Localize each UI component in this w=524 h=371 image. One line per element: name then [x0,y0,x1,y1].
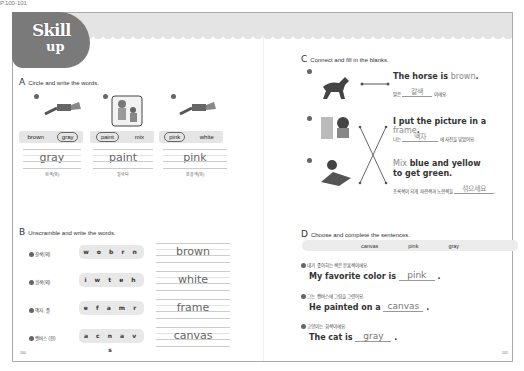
answer-text: canvas [156,329,230,342]
answer-text: white [156,273,230,286]
section-instruction: Connect and fill in the blanks. [310,57,388,63]
unscramble-row: 캔버스 (천) a c n a v s canvas [29,329,259,347]
writing-lines: brown [156,243,230,263]
workbook-spread: Skill up ACircle and write the words. br… [12,12,513,362]
sentence: The cat is gray . [309,331,397,342]
row-hint: 액자, 틀 [29,307,50,313]
row-hint: 갈색(의) [29,251,50,257]
korean-hint: 분홍색(의) [163,171,227,177]
scrambled-letters: a c n a v s [79,329,144,343]
section-b-heading: BUnscramble and write the words. [19,227,116,237]
section-c-heading: CConnect and fill in the blanks. [301,54,389,64]
choice-word-circled[interactable]: gray [57,132,79,142]
writing-lines: frame [156,299,230,319]
fill-blank[interactable]: 액자 [402,131,438,142]
writing-lines: paint [93,149,153,169]
number-badge [307,116,312,121]
sentence-text: He painted on a [309,303,381,312]
sentence-text: The horse is [393,72,451,81]
connect-lines-crossed[interactable] [358,125,388,185]
badge-title: Skill [32,20,70,40]
kr-text: . [494,189,495,194]
sentence: Mix blue and yellowto get green. [393,159,481,179]
row-hint: 캔버스 (천) [29,335,56,341]
number-badge [301,294,306,299]
korean-hint: 흰색(의) [35,280,50,285]
answer-text: frame [156,301,230,314]
kr-text: 고양이는 회색이에요. [307,324,346,329]
word-bank: canvas pink gray [302,240,518,251]
answer-text: gray [23,151,81,164]
answer-blank[interactable]: pink [399,270,435,281]
badge-subtitle: up [46,39,65,54]
section-letter: D [301,229,308,239]
page-number-right: 101 [502,351,508,355]
kr-text: 말은 [393,92,401,97]
section-instruction: Circle and write the words. [28,80,99,86]
sentence-text: to get green. [393,169,452,178]
sentence-text: I put the picture in a [393,117,486,126]
number-badge [307,69,312,74]
paint-tube-icon [43,100,83,118]
picture-frame-image [319,113,353,141]
section-d-heading: DChoose and complete the sentences. [301,229,410,239]
page-divider [263,35,264,361]
choice-word[interactable]: white [196,133,218,141]
sentence: My favorite color is pink . [309,270,441,281]
scrambled-letters: i w t e h [79,273,144,287]
number-badge [34,94,39,99]
word-choice-pill: pink white [159,131,223,143]
writing-lines: gray [23,149,81,169]
painting-girl-image [319,158,353,186]
answer-text: paint [93,151,153,164]
number-badge [29,308,34,313]
choice-word-circled[interactable]: paint [96,132,119,142]
answer-text: pink [163,151,227,164]
sentence-text: My favorite color is [309,272,396,281]
section-letter: A [19,77,25,87]
korean-prompt: 그는 캔버스에 그림을 그렸어요. [301,293,364,299]
paint-tube-icon [178,100,218,118]
korean-hint: 칠하다 [93,171,153,177]
answer-blank[interactable]: canvas [383,301,423,312]
section-letter: B [19,227,25,237]
sentence-text: blue and yellow [407,159,481,168]
row-hint: 흰색(의) [29,279,50,285]
korean-prompt: 고양이는 회색이에요. [301,323,346,329]
kr-text: 에 사진을 넣었어요. [440,137,476,142]
unscramble-row: 액자, 틀 e f a m r frame [29,301,259,319]
choice-word[interactable]: brown [23,133,47,141]
word-bank-item: pink [408,243,418,249]
kr-text: 내가 좋아하는 색은 분홍색이에요. [307,263,368,268]
sentence-text: . [438,272,441,281]
word-choice-pill: brown gray [19,131,83,143]
skill-up-badge: Skill up [12,12,90,68]
korean-hint: 캔버스 (천) [35,336,55,341]
horse-image [319,75,351,101]
korean-hint: 갈색(의) [35,252,50,257]
sentence-text: The cat is [309,333,353,342]
number-badge [301,324,306,329]
choice-word[interactable]: mix [131,133,148,141]
sentence-text: . [394,333,397,342]
fill-blank[interactable]: 섞으세요 [454,183,494,194]
section-instruction: Unscramble and write the words. [28,230,115,236]
connect-line[interactable] [360,81,390,87]
number-badge [301,263,306,268]
answer-blank[interactable]: gray [355,331,391,342]
answer-text: brown [156,245,230,258]
korean-sentence: 말은 갈색 이에요. [393,86,447,97]
sentence: He painted on a canvas . [309,301,429,312]
sentence: The horse is brown. [393,72,479,81]
section-instruction: Choose and complete the sentences. [311,232,410,238]
unscramble-row: 갈색(의) w o b r n brown [29,245,259,263]
korean-sentence: 초록색이 되게 파란색과 노란색을 섞으세요. [393,183,495,194]
choice-word-circled[interactable]: pink [164,132,185,142]
section-letter: C [301,54,307,64]
highlight-word: Mix [393,159,407,168]
kr-text: 그는 캔버스에 그림을 그렸어요. [307,294,364,299]
sentence-text: . [475,72,478,81]
page-number-left: 100 [20,351,26,355]
top-mark: P.100-101 [0,0,27,6]
fill-blank[interactable]: 갈색 [402,86,432,97]
